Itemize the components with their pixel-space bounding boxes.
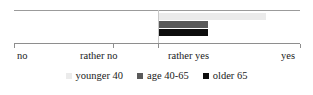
legend-swatch-icon-age-40-65 [137, 73, 143, 79]
bar-older-65 [158, 29, 208, 36]
chart-legend: younger 40 age 40-65 older 65 [0, 70, 313, 82]
legend-item-younger-40: younger 40 [66, 70, 124, 82]
legend-swatch-icon-older-65 [203, 73, 209, 79]
axis-label-rather-no: rather no [80, 50, 118, 62]
axis-tick-yes [300, 44, 301, 48]
legend-item-older-65: older 65 [203, 70, 248, 82]
plot-area [14, 10, 300, 44]
axis-tick-no [14, 44, 15, 48]
legend-item-age-40-65: age 40-65 [137, 70, 189, 82]
gridline-rather-yes [158, 10, 159, 44]
legend-label-older-65: older 65 [213, 70, 248, 82]
legend-swatch-icon-younger-40 [66, 73, 72, 79]
bar-chart: no rather no rather yes yes younger 40 a… [0, 0, 313, 95]
axis-tick-rather-yes [158, 44, 159, 48]
bar-age-40-65 [158, 21, 208, 28]
legend-label-younger-40: younger 40 [76, 70, 124, 82]
axis-label-yes: yes [281, 50, 295, 62]
plot-top-border [14, 10, 300, 11]
bar-younger-40 [158, 13, 266, 20]
axis-label-rather-yes: rather yes [168, 50, 209, 62]
axis-tick-rather-no [113, 44, 114, 48]
legend-label-age-40-65: age 40-65 [147, 70, 189, 82]
axis-label-no: no [17, 50, 28, 62]
x-axis-line [14, 43, 300, 44]
